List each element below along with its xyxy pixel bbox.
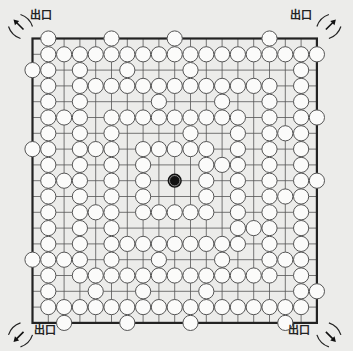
white-stone <box>41 205 56 220</box>
white-stone <box>41 173 56 188</box>
white-stone <box>183 205 198 220</box>
white-stone <box>294 284 309 299</box>
white-stone <box>104 142 119 157</box>
white-stone <box>136 47 151 62</box>
white-stone <box>41 110 56 125</box>
white-stone <box>25 252 40 267</box>
white-stone <box>136 284 151 299</box>
white-stone <box>309 173 324 188</box>
white-stone <box>262 300 277 315</box>
white-stone <box>72 110 87 125</box>
white-stone <box>167 78 182 93</box>
white-stone <box>199 142 214 157</box>
white-stone <box>41 189 56 204</box>
white-stone <box>294 110 309 125</box>
white-stone <box>309 47 324 62</box>
white-stone <box>151 300 166 315</box>
white-stone <box>57 47 72 62</box>
white-stone <box>104 189 119 204</box>
white-stone <box>72 173 87 188</box>
white-stone <box>230 142 245 157</box>
white-stone <box>294 47 309 62</box>
white-stone <box>57 252 72 267</box>
white-stone <box>167 142 182 157</box>
white-stone <box>25 63 40 78</box>
white-stone <box>215 47 230 62</box>
white-stone <box>72 221 87 236</box>
white-stone <box>167 300 182 315</box>
white-stone <box>72 78 87 93</box>
white-stone <box>262 142 277 157</box>
white-stone <box>104 173 119 188</box>
white-stone <box>246 221 261 236</box>
exit-arrow-top-left <box>9 15 33 39</box>
exit-arrow-top-right <box>317 15 341 39</box>
white-stone <box>72 126 87 141</box>
white-stone <box>309 284 324 299</box>
white-stone <box>151 236 166 251</box>
white-stone <box>88 142 103 157</box>
arrow-shaft <box>326 23 333 30</box>
white-stone <box>136 173 151 188</box>
white-stone <box>294 268 309 283</box>
white-stone <box>183 78 198 93</box>
white-stone <box>215 268 230 283</box>
white-stone <box>199 284 214 299</box>
white-stone <box>278 126 293 141</box>
white-stone <box>246 268 261 283</box>
white-stone <box>262 221 277 236</box>
white-stone <box>199 157 214 172</box>
white-stone <box>136 110 151 125</box>
white-stone <box>41 157 56 172</box>
white-stone <box>136 189 151 204</box>
white-stone <box>41 78 56 93</box>
white-stone <box>72 268 87 283</box>
white-stone <box>136 142 151 157</box>
white-stone <box>167 110 182 125</box>
white-stone <box>230 236 245 251</box>
white-stone <box>41 268 56 283</box>
white-stone <box>183 126 198 141</box>
white-stone <box>41 221 56 236</box>
white-stone <box>136 205 151 220</box>
white-stone <box>230 300 245 315</box>
white-stone <box>120 300 135 315</box>
go-board <box>0 0 353 351</box>
white-stone <box>120 236 135 251</box>
white-stone <box>183 110 198 125</box>
white-stone <box>262 157 277 172</box>
exit-wall-curve <box>9 27 21 39</box>
white-stone <box>215 157 230 172</box>
white-stone <box>72 205 87 220</box>
white-stone <box>309 110 324 125</box>
white-stone <box>230 268 245 283</box>
white-stone <box>104 252 119 267</box>
white-stone <box>88 205 103 220</box>
white-stone <box>104 78 119 93</box>
white-stone <box>151 94 166 109</box>
white-stone <box>136 300 151 315</box>
white-stone <box>246 300 261 315</box>
white-stone <box>199 189 214 204</box>
white-stone <box>230 221 245 236</box>
white-stone <box>246 47 261 62</box>
white-stone <box>294 252 309 267</box>
white-stone <box>136 78 151 93</box>
white-stone <box>278 300 293 315</box>
white-stone <box>262 205 277 220</box>
white-stone <box>230 78 245 93</box>
white-stone <box>183 63 198 78</box>
maze-puzzle: 出口 出口 出口 出口 <box>0 0 353 351</box>
white-stone <box>151 47 166 62</box>
arrow-shaft <box>326 332 333 339</box>
white-stone <box>294 221 309 236</box>
white-stone <box>167 268 182 283</box>
exit-label-bottom-left: 出口 <box>34 325 56 337</box>
white-stone <box>167 205 182 220</box>
white-stone <box>104 236 119 251</box>
white-stone <box>246 78 261 93</box>
white-stone <box>151 268 166 283</box>
white-stone <box>262 189 277 204</box>
white-stone <box>57 110 72 125</box>
white-stone <box>41 94 56 109</box>
